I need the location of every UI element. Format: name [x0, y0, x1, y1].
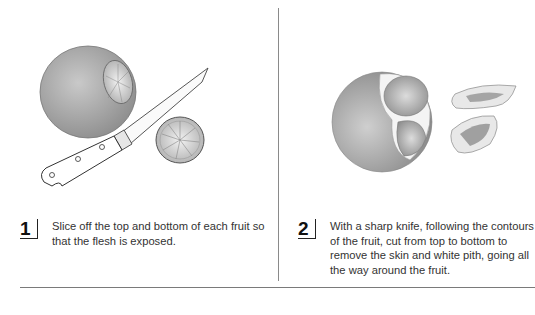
peeled-fruit-illustration [320, 60, 530, 180]
step-number-1: 1 [20, 219, 40, 241]
number-underline [20, 238, 38, 239]
bottom-rule [20, 287, 535, 288]
number-bracket [315, 219, 316, 238]
column-divider [278, 8, 279, 281]
step-2: 2 With a sharp knife, following the cont… [298, 219, 535, 277]
step-1-text: Slice off the top and bottom of each fru… [52, 219, 270, 248]
number-bracket [37, 219, 38, 238]
fruit-knife-illustration [30, 40, 230, 190]
step-number-2: 2 [298, 219, 318, 241]
step-2-text: With a sharp knife, following the contou… [330, 219, 535, 277]
step-1: 1 Slice off the top and bottom of each f… [20, 219, 270, 248]
number-underline [298, 238, 316, 239]
